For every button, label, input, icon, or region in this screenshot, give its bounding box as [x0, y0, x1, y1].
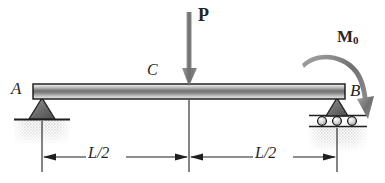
moment-label: M0: [337, 28, 359, 46]
pin-support-triangle: [29, 98, 55, 119]
beam-diagram-figure: A B C P M0 L/2 L/2: [0, 0, 385, 183]
support-label-b: B: [350, 82, 360, 99]
point-load-label: P: [198, 6, 209, 24]
midspan-label-c: C: [147, 62, 158, 78]
roller-support-wheels: [318, 117, 357, 126]
dimension-label-left: L/2: [88, 145, 109, 161]
beam-member: [33, 84, 345, 99]
moment-label-letter: M: [337, 27, 353, 46]
point-load-arrow: [182, 12, 197, 86]
dimension-label-right: L/2: [255, 145, 276, 161]
roller-support-triangle: [326, 98, 348, 116]
moment-label-subscript: 0: [353, 34, 359, 46]
dimension-extension-lines: [42, 100, 337, 172]
dimension-left: [43, 153, 188, 160]
support-label-a: A: [11, 80, 21, 97]
diagram-canvas: [0, 0, 385, 183]
